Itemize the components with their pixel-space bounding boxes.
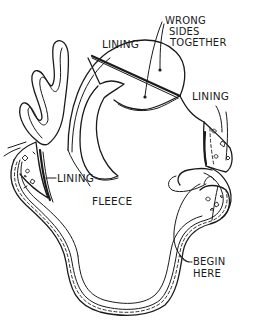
label-lining-right: LINING — [192, 90, 229, 102]
label-sides: SIDES — [169, 26, 200, 37]
label-fleece: FLEECE — [92, 195, 132, 207]
label-wrong: WRONG — [165, 15, 206, 26]
right-lining-patch — [178, 122, 232, 220]
sewing-diagram: WRONG SIDES TOGETHER LINING LINING LININ… — [0, 0, 255, 330]
label-here: HERE — [193, 268, 221, 279]
label-together: TOGETHER — [169, 37, 227, 48]
label-lining-top: LINING — [102, 38, 139, 50]
label-lining-left: LINING — [57, 172, 94, 184]
label-begin: BEGIN — [193, 256, 225, 267]
folded-flap — [80, 58, 124, 180]
thumb-ribbon — [20, 41, 69, 145]
leader-lines — [46, 22, 228, 262]
